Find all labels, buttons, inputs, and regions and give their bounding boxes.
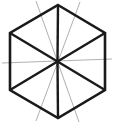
spoke-lower-left: [10, 62, 58, 91]
spoke-lower-right: [58, 62, 106, 91]
spoke-bottom: [58, 62, 59, 119]
hexagon-figure: [0, 0, 113, 123]
spoke-top: [58, 5, 59, 62]
spoke-upper-left: [10, 33, 58, 62]
figure-canvas: [0, 0, 113, 123]
spoke-line-group: [10, 5, 105, 118]
spoke-upper-right: [58, 33, 106, 62]
